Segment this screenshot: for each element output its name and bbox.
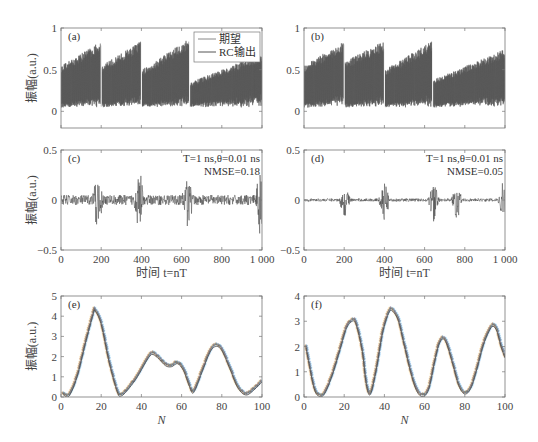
annotation: T=1 ns,θ=0.01 ns: [426, 152, 503, 164]
panel-label: (d): [311, 152, 324, 165]
y-axis-label: 振幅(a.u.): [24, 53, 39, 102]
x-tick-label: 0: [58, 253, 64, 265]
x-tick-label: 40: [136, 400, 148, 412]
x-tick-label: 600: [416, 253, 433, 265]
x-tick-label: 80: [459, 400, 471, 412]
y-axis-label: 振幅(a.u.): [24, 322, 39, 371]
x-axis-label: N: [156, 413, 166, 427]
panel-label: (e): [68, 298, 81, 311]
plot-area: [304, 183, 505, 221]
x-tick-label: 60: [176, 400, 188, 412]
markers: ****************************************…: [61, 306, 263, 402]
x-axis-label: 时间 t=nT: [136, 266, 187, 280]
y-tick-label: −0.5: [37, 244, 57, 256]
x-axis-label: N: [399, 413, 409, 427]
legend-entry: 期望: [219, 33, 241, 45]
x-tick-label: 400: [133, 253, 150, 265]
y-tick-label: 0.5: [286, 144, 300, 156]
y-tick-label: 0.5: [43, 144, 57, 156]
x-tick-label: 1 000: [250, 253, 275, 265]
panel-e: ****************************************…: [24, 290, 271, 427]
y-tick-label: 0: [52, 194, 58, 206]
y-tick-label: 0: [52, 391, 58, 403]
markers: ****************************************…: [304, 306, 507, 401]
y-tick-label: 1: [295, 366, 301, 378]
x-tick-label: 200: [336, 253, 353, 265]
series-rc-output: [304, 42, 505, 108]
y-tick-label: 5: [52, 290, 58, 302]
x-tick-label: 400: [376, 253, 393, 265]
x-tick-label: 0: [301, 253, 307, 265]
y-tick-label: 1: [52, 22, 58, 34]
plot-area: [304, 28, 505, 113]
x-tick-label: 600: [173, 253, 190, 265]
panel-a: 00.51(a)振幅(a.u.)期望RC输出: [24, 22, 262, 128]
y-tick-label: 2: [52, 351, 58, 363]
y-tick-label: 1: [295, 22, 301, 34]
annotation: T=1 ns,θ=0.01 ns: [183, 152, 260, 164]
annotation: NMSE=0.05: [447, 165, 504, 177]
x-tick-label: 200: [93, 253, 110, 265]
x-tick-label: 60: [419, 400, 431, 412]
annotation: NMSE=0.18: [204, 165, 261, 177]
y-tick-label: −0.5: [280, 244, 300, 256]
x-tick-label: 0: [58, 400, 64, 412]
plot-area: ****************************************…: [61, 306, 263, 402]
panel-label: (a): [68, 30, 81, 43]
panel-label: (c): [68, 152, 81, 165]
figure: 00.51(a)振幅(a.u.)期望RC输出 00.51(b) 02004006…: [0, 0, 538, 442]
y-tick-label: 4: [295, 290, 301, 302]
plot-area: ****************************************…: [304, 306, 507, 401]
panel-c: 02004006008001 000−0.500.5(c)振幅(a.u.)时间 …: [24, 144, 275, 280]
x-axis-label: 时间 t=nT: [379, 266, 430, 280]
x-tick-label: 800: [214, 253, 231, 265]
error-series: [61, 175, 262, 233]
y-tick-label: 0.5: [43, 64, 57, 76]
y-tick-label: 3: [295, 315, 301, 327]
y-tick-label: 2: [295, 341, 301, 353]
x-tick-label: 1 000: [493, 253, 518, 265]
x-tick-label: 20: [339, 400, 351, 412]
x-tick-label: 800: [457, 253, 474, 265]
y-tick-label: 0: [52, 105, 58, 117]
x-tick-label: 100: [497, 400, 514, 412]
plot-area: [61, 175, 262, 233]
panel-label: (f): [311, 298, 322, 311]
error-series: [304, 183, 505, 221]
panel-f: ****************************************…: [295, 290, 514, 427]
x-tick-label: 100: [254, 400, 271, 412]
y-tick-label: 0: [295, 105, 301, 117]
legend: 期望RC输出: [194, 32, 260, 62]
legend-entry: RC输出: [219, 45, 256, 58]
x-tick-label: 0: [301, 400, 307, 412]
y-tick-label: 0: [295, 391, 301, 403]
y-tick-label: 4: [52, 310, 58, 322]
y-tick-label: 0: [295, 194, 301, 206]
panel-d: 02004006008001 000−0.500.5(d)时间 t=nTT=1 …: [280, 144, 518, 280]
y-tick-label: 3: [52, 330, 58, 342]
panel-label: (b): [311, 30, 324, 43]
y-tick-label: 1: [52, 371, 58, 383]
panel-b: 00.51(b): [286, 22, 505, 128]
x-tick-label: 80: [216, 400, 228, 412]
y-axis-label: 振幅(a.u.): [24, 175, 39, 224]
x-tick-label: 20: [96, 400, 108, 412]
x-tick-label: 40: [379, 400, 391, 412]
y-tick-label: 0.5: [286, 64, 300, 76]
